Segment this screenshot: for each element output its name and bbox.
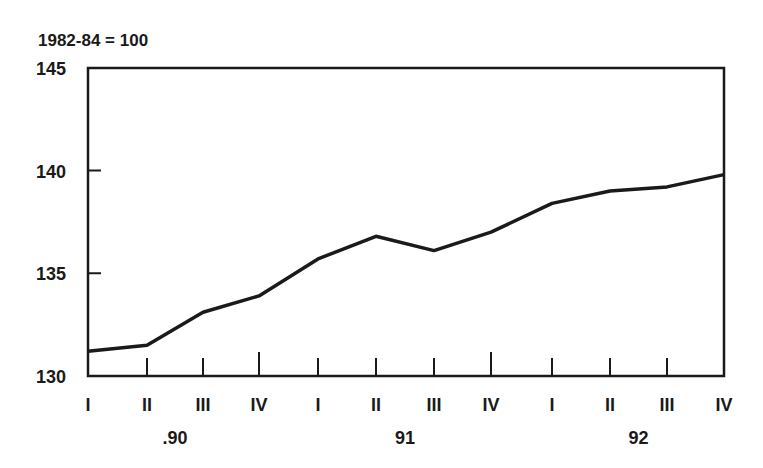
base-period-label: 1982-84 = 100 <box>38 31 148 50</box>
x-year-label: 91 <box>395 428 415 448</box>
x-quarter-label: I <box>315 395 320 415</box>
x-quarter-label: II <box>605 395 615 415</box>
x-quarter-label: IV <box>482 395 499 415</box>
line-chart: 1982-84 = 100 130135140145 IIIIIIIVIIIII… <box>0 0 763 468</box>
y-tick-label: 130 <box>36 367 66 387</box>
x-quarter-label: III <box>426 395 441 415</box>
y-tick-label: 145 <box>36 59 66 79</box>
x-quarter-label: I <box>85 395 90 415</box>
y-tick-label: 140 <box>36 162 66 182</box>
x-year-label: 92 <box>628 428 648 448</box>
x-year-label: .90 <box>162 428 187 448</box>
y-axis-ticks: 130135140145 <box>36 59 101 387</box>
x-axis-ticks: IIIIIIIVIIIIIIIVIIIIIIIV.909192 <box>85 352 732 448</box>
x-quarter-label: II <box>371 395 381 415</box>
x-quarter-label: III <box>659 395 674 415</box>
plot-frame <box>88 68 724 376</box>
x-quarter-label: II <box>142 395 152 415</box>
x-quarter-label: IV <box>250 395 267 415</box>
series-line <box>88 175 724 352</box>
x-quarter-label: I <box>549 395 554 415</box>
x-quarter-label: IV <box>715 395 732 415</box>
x-quarter-label: III <box>195 395 210 415</box>
y-tick-label: 135 <box>36 264 66 284</box>
